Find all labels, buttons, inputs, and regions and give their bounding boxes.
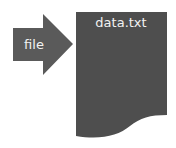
arrow-label: file <box>24 37 44 52</box>
file-arrow: file <box>13 14 73 75</box>
diagram: file data.txt <box>0 0 176 148</box>
document-shape: data.txt <box>76 12 167 138</box>
document-icon <box>76 12 167 138</box>
document-label: data.txt <box>95 15 146 30</box>
